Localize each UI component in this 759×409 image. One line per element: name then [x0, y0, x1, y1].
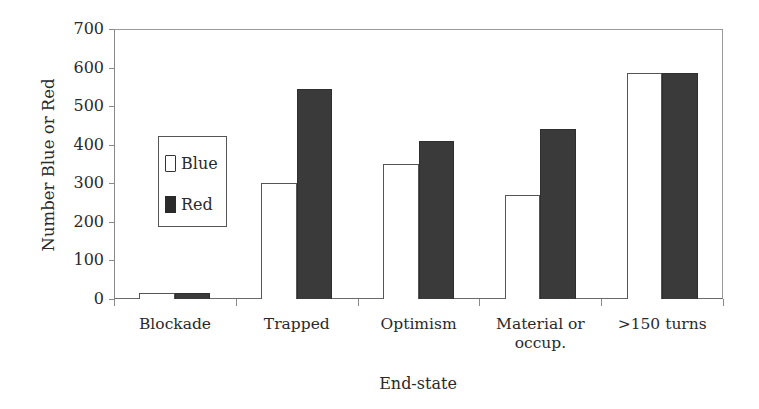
legend-item-red: Red	[165, 195, 213, 214]
bar-blue-3	[505, 195, 541, 299]
x-category-line: Blockade	[114, 315, 236, 334]
x-category-label: Material oroccup.	[479, 315, 601, 353]
x-category-line: Trapped	[236, 315, 358, 334]
x-tick-mark	[601, 299, 602, 306]
bar-blue-4	[627, 73, 663, 299]
bar-blue-1	[261, 183, 297, 299]
x-category-label: Blockade	[114, 315, 236, 334]
x-category-label: Optimism	[358, 315, 480, 334]
x-axis-title: End-state	[379, 374, 457, 393]
y-tick-mark	[109, 68, 114, 69]
bar-blue-2	[383, 164, 419, 299]
red-swatch-icon	[165, 196, 176, 213]
y-tick-mark	[109, 183, 114, 184]
legend-label-red: Red	[181, 195, 213, 214]
y-tick-mark	[109, 29, 114, 30]
y-tick-mark	[109, 260, 114, 261]
legend-label-blue: Blue	[181, 154, 218, 173]
x-tick-mark	[358, 299, 359, 306]
bar-red-3	[540, 129, 576, 299]
legend-item-blue: Blue	[165, 154, 218, 173]
y-tick-label: 600	[44, 60, 104, 76]
x-category-label: Trapped	[236, 315, 358, 334]
x-category-line: Optimism	[358, 315, 480, 334]
x-tick-mark	[114, 299, 115, 306]
y-axis-title: Number Blue or Red	[39, 78, 58, 251]
bar-red-0	[175, 293, 211, 299]
blue-swatch-icon	[165, 155, 176, 172]
y-tick-mark	[109, 106, 114, 107]
x-tick-mark	[479, 299, 480, 306]
y-tick-label: 0	[44, 291, 104, 307]
x-category-line: occup.	[479, 334, 601, 353]
bar-red-4	[662, 73, 698, 299]
x-category-line: Material or	[479, 315, 601, 334]
y-tick-mark	[109, 145, 114, 146]
x-category-line: >150 turns	[601, 315, 723, 334]
x-category-label: >150 turns	[601, 315, 723, 334]
bar-red-2	[419, 141, 455, 299]
legend: Blue Red	[158, 136, 227, 227]
x-tick-mark	[723, 299, 724, 306]
bar-blue-0	[139, 293, 175, 299]
y-tick-label: 100	[44, 252, 104, 268]
y-tick-label: 700	[44, 21, 104, 37]
bar-red-1	[297, 89, 333, 299]
y-tick-mark	[109, 222, 114, 223]
x-tick-mark	[236, 299, 237, 306]
